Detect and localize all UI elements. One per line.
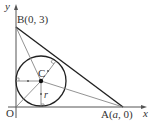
point-A-suffix: , 0) xyxy=(118,108,133,121)
point-A-label: A(a, 0) xyxy=(101,108,133,121)
y-axis-label: y xyxy=(4,0,10,12)
point-C-label: C xyxy=(38,67,45,79)
tick-left-radius xyxy=(27,80,29,82)
origin-label: O xyxy=(6,107,14,119)
inscribed-circle-diagram: y x O B(0, 3) C r A(a, 0) xyxy=(0,0,153,123)
radius-label: r xyxy=(44,89,48,100)
point-A-prefix: A( xyxy=(101,108,113,121)
segment-BA xyxy=(16,27,123,107)
x-axis-label: x xyxy=(142,107,148,119)
y-axis-arrow-icon xyxy=(14,4,18,10)
point-B-label: B(0, 3) xyxy=(17,13,49,26)
center-point-C xyxy=(39,79,43,83)
tick-bottom-radius xyxy=(40,93,42,95)
tick-hyp-radius xyxy=(47,70,49,72)
